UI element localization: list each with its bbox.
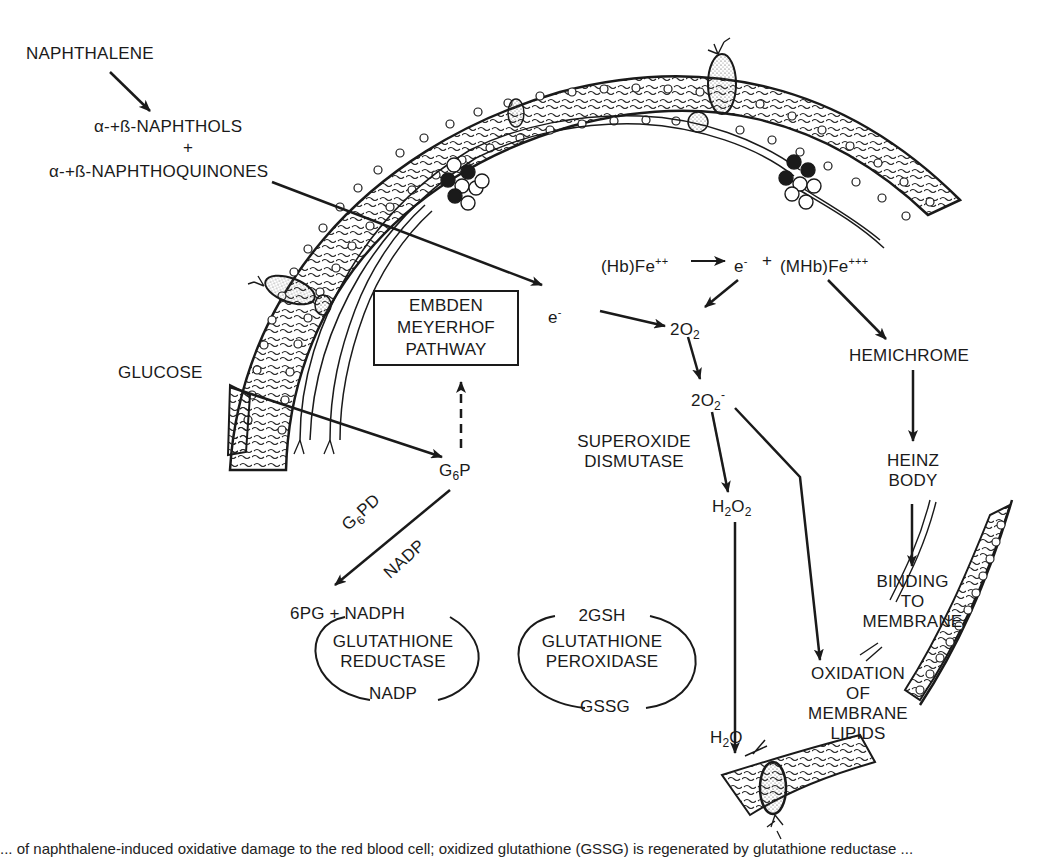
label-electron-from-hb: e- — [734, 251, 748, 277]
label-heinz-body: HEINZ BODY — [880, 451, 946, 491]
diagram-canvas: NAPHTHALENE α-+ß-NAPHTHOLS + α-+ß-NAPHTH… — [0, 0, 1040, 857]
label-naphthols: α-+ß-NAPHTHOLS — [94, 117, 242, 137]
label-h2o2: H2O2 — [712, 497, 752, 522]
label-oxidation-of-membrane-lipids: OXIDATION OF MEMBRANE LIPIDS — [793, 664, 923, 744]
arrow-superoxide-to-h2o2 — [712, 412, 728, 492]
figure-caption-fragment: ... of naphthalene-induced oxidative dam… — [0, 840, 1040, 857]
label-superoxide-anion: 2O2- — [691, 385, 725, 416]
embden-line-2: MEYERHOF — [375, 317, 517, 339]
embden-meyerhof-box: EMBDEN MEYERHOF PATHWAY — [373, 290, 519, 366]
arrow-mhb-to-hemichrome — [828, 280, 886, 339]
arrow-electron-to-o2-right — [705, 280, 738, 307]
label-superoxide-dismutase: SUPEROXIDE DISMUTASE — [570, 432, 698, 472]
label-electron: e- — [548, 302, 562, 328]
embden-line-3: PATHWAY — [375, 339, 517, 361]
label-plus-mhb: + — [762, 251, 772, 271]
label-glucose: GLUCOSE — [118, 363, 203, 383]
label-oxygen: 2O2 — [670, 320, 700, 345]
label-g6p: G6P — [439, 461, 471, 486]
label-plus: + — [183, 138, 193, 158]
label-naphthoquinones: α-+ß-NAPHTHOQUINONES — [49, 162, 268, 182]
label-glutathione-reductase: GLUTATHIONE REDUCTASE — [318, 632, 468, 672]
label-hb-fe2: (Hb)Fe++ — [601, 251, 668, 277]
label-hemichrome: HEMICHROME — [849, 346, 969, 366]
junctional-complex-right — [779, 155, 821, 209]
label-water: H2O — [710, 728, 743, 753]
label-naphthalene: NAPHTHALENE — [26, 44, 154, 64]
embden-line-1: EMBDEN — [375, 295, 517, 317]
label-glutathione-peroxidase: GLUTATHIONE PEROXIDASE — [527, 632, 677, 672]
label-gssg: GSSG — [570, 697, 640, 717]
label-binding-to-membrane: BINDING TO MEMBRANE — [855, 572, 970, 632]
label-2gsh: 2GSH — [567, 606, 637, 626]
cell-membrane-bottom — [722, 735, 875, 839]
junctional-complex-left — [441, 158, 489, 210]
arrow-superoxide-to-lipid-oxidation — [735, 408, 820, 660]
arrow-naphthalene-to-naphthols — [110, 72, 150, 111]
label-gr-nadp: NADP — [363, 684, 423, 704]
label-mhb-fe3: (MHb)Fe+++ — [780, 251, 868, 277]
label-6pg-nadph: 6PG + NADPH — [290, 604, 405, 624]
arrow-electron-to-o2-left — [600, 311, 665, 326]
